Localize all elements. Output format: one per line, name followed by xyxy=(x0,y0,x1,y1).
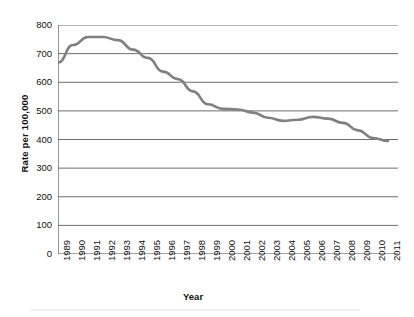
y-tick-label: 500 xyxy=(24,106,52,116)
line-chart: Rate per 100,000 01002003004005006007008… xyxy=(0,0,414,317)
x-tick-label: 1998 xyxy=(197,240,207,261)
x-tick-label: 1999 xyxy=(212,240,222,261)
y-axis-tick-labels: 0100200300400500600700800 xyxy=(22,0,52,317)
x-tick-label: 2003 xyxy=(272,240,282,261)
y-tick-label: 600 xyxy=(24,77,52,87)
series-line-rate xyxy=(58,37,388,141)
y-tick-label: 200 xyxy=(24,192,52,202)
y-tick-label: 100 xyxy=(24,220,52,230)
x-tick-label: 1994 xyxy=(137,240,147,261)
x-tick-label: 2000 xyxy=(227,240,237,261)
x-tick-label: 1993 xyxy=(122,240,132,261)
x-tick-label: 1997 xyxy=(182,240,192,261)
x-tick-label: 2008 xyxy=(347,240,357,261)
x-tick-label: 2009 xyxy=(362,240,372,261)
y-tick-label: 400 xyxy=(24,135,52,145)
x-tick-label: 1991 xyxy=(92,240,102,261)
x-tick-label: 1995 xyxy=(152,240,162,261)
x-tick-label: 1992 xyxy=(107,240,117,261)
y-tick-label: 800 xyxy=(24,20,52,30)
x-tick-label: 1989 xyxy=(62,240,72,261)
x-tick-label: 2011 xyxy=(392,241,402,261)
x-tick-label: 2007 xyxy=(332,240,342,261)
x-tick-label: 1990 xyxy=(77,240,87,261)
y-tick-label: 700 xyxy=(24,49,52,59)
y-tick-label: 0 xyxy=(24,249,52,259)
x-tick-label: 1996 xyxy=(167,240,177,261)
x-tick-label: 2006 xyxy=(317,240,327,261)
y-tick-label: 300 xyxy=(24,163,52,173)
x-axis-title: Year xyxy=(183,291,203,302)
page-artifact xyxy=(30,309,360,311)
plot-svg xyxy=(58,25,398,254)
plot-area xyxy=(58,25,398,254)
x-tick-label: 2010 xyxy=(377,240,387,261)
x-tick-label: 2002 xyxy=(257,240,267,261)
x-tick-label: 2001 xyxy=(242,240,252,261)
x-tick-label: 2005 xyxy=(302,240,312,261)
x-tick-label: 2004 xyxy=(287,240,297,261)
